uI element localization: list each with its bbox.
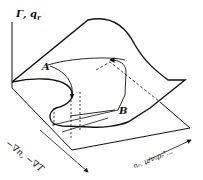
vertical-axis-label-sub: r [37,13,41,22]
point-b-label: B [119,105,127,116]
dashed-projection-1 [96,62,160,102]
fold-curve [12,79,90,127]
point-a-label: A [42,61,50,72]
surface-right-edge [90,88,175,127]
lower-branch-to-b [70,110,115,116]
surface-contour [48,58,125,65]
lower-branch-lines [52,110,118,132]
vertical-axis-label-text: Γ, q [16,8,37,19]
vertical-axis-label: Γ, qr [16,8,41,22]
surface-top-edge [12,19,185,88]
x-axis-arrow [40,130,88,172]
hysteresis-path-b [110,60,126,110]
